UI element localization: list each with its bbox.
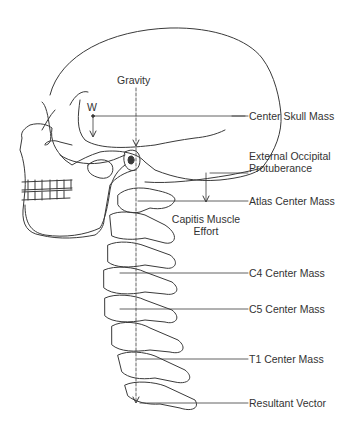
label-resultant-vector: Resultant Vector: [249, 397, 326, 409]
zygomatic-arch: [60, 155, 125, 164]
vertebra-c6: [112, 322, 183, 352]
label-center-skull-mass: Center Skull Mass: [249, 110, 334, 122]
skull-detail: [42, 92, 88, 145]
label-external-occipital-protuberance: External Occipital Protuberance: [249, 150, 331, 174]
label-atlas-center-mass: Atlas Center Mass: [249, 195, 335, 207]
vertebra-atlas: [118, 188, 175, 213]
label-t1-center-mass: T1 Center Mass: [249, 353, 324, 365]
vertebra-c7: [118, 352, 190, 383]
temporal-line: [78, 100, 225, 147]
ear-canal: [128, 156, 134, 164]
label-capitis-line2: Effort: [170, 225, 242, 237]
label-eop-line1: External Occipital: [249, 150, 331, 162]
label-c4-center-mass: C4 Center Mass: [249, 267, 325, 279]
orbit: [42, 102, 51, 145]
vertebra-c4: [104, 267, 177, 294]
label-capitis-muscle-effort: Capitis Muscle Effort: [170, 213, 242, 237]
teeth-lower: [22, 190, 72, 200]
teeth-upper: [22, 180, 72, 190]
vertebra-c3: [108, 242, 175, 268]
label-capitis-line1: Capitis Muscle: [170, 213, 242, 225]
label-eop-line2: Protuberance: [249, 162, 331, 174]
label-weight: W: [87, 101, 97, 113]
skull-outline: [20, 28, 281, 238]
label-gravity: Gravity: [117, 74, 150, 86]
vertebra-c2: [110, 212, 174, 243]
label-c5-center-mass: C5 Center Mass: [249, 303, 325, 315]
